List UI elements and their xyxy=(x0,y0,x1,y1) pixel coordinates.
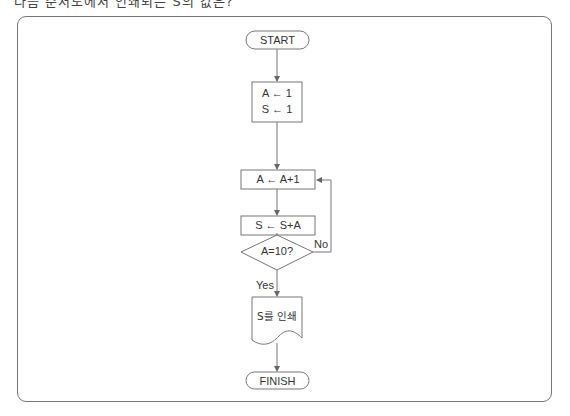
decision-label: A=10? xyxy=(241,245,313,257)
start-label: START xyxy=(246,34,309,46)
init-line-1: A ← 1 xyxy=(252,87,302,99)
output-label: S를 인쇄 xyxy=(252,308,302,323)
finish-label: FINISH xyxy=(246,375,309,387)
init-line-2: S ← 1 xyxy=(252,103,302,115)
yes-label: Yes xyxy=(256,279,274,291)
accumulate-label: S ← S+A xyxy=(241,219,315,231)
no-label: No xyxy=(314,238,328,250)
flowchart-diagram xyxy=(0,0,570,416)
increment-label: A ← A+1 xyxy=(241,173,315,185)
